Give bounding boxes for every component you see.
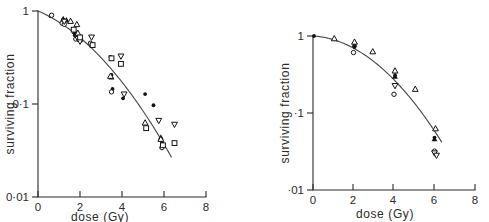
xtick-label-0: 0	[35, 201, 41, 213]
y-axis-title-right: surviving fraction	[278, 63, 292, 164]
xtick-label-8: 8	[472, 194, 478, 206]
xtick-label-6: 6	[431, 194, 437, 206]
data-point-open-square	[90, 43, 95, 48]
data-point-open-triangle-up	[370, 49, 376, 54]
data-point-open-circle	[351, 50, 355, 54]
y-axis-title-left: surviving fraction	[3, 54, 17, 155]
data-point-open-triangle-down	[118, 54, 124, 59]
figure-root: 1 0·1 0·01 0 2 4 6 8 dose (Gy) surviving…	[0, 0, 489, 222]
survival-curve-plot-left: 1 0·1 0·01 0 2 4 6 8 dose (Gy) surviving…	[0, 0, 245, 222]
data-point-open-triangle-up	[412, 86, 418, 91]
xtick-label-6: 6	[161, 201, 167, 213]
series-open-triangle-down	[392, 84, 439, 159]
fit-curve-left	[38, 11, 171, 157]
survival-curve-plot-right: 1 ·1 ·01 0 2 4 6 8 dose (Gy) surviving f…	[245, 0, 489, 222]
series-open-circle	[351, 50, 436, 153]
axis-lines	[313, 36, 475, 190]
data-point-open-circle	[49, 13, 53, 17]
xtick-labels-right: 0 2 4 6 8	[310, 194, 478, 206]
series-open-square	[71, 27, 177, 147]
xtick-label-4: 4	[390, 194, 397, 206]
data-point-open-triangle-up	[331, 36, 337, 41]
data-point-open-triangle-down	[121, 92, 127, 97]
data-point-open-triangle-up	[352, 39, 358, 44]
series-filled-triangle-up	[352, 41, 438, 141]
data-point-open-square	[78, 35, 83, 40]
data-point-open-triangle-down	[172, 122, 178, 127]
chart-panel-left: 1 0·1 0·01 0 2 4 6 8 dose (Gy) surviving…	[0, 0, 245, 222]
data-point-open-triangle-up	[433, 126, 439, 131]
axis-lines	[38, 11, 206, 197]
axes-left	[32, 11, 206, 197]
ytick-label-1: 1	[298, 30, 304, 42]
data-point-filled-circle	[312, 34, 316, 38]
axes-right	[307, 36, 475, 190]
chart-panel-right: 1 ·1 ·01 0 2 4 6 8 dose (Gy) surviving f…	[245, 0, 489, 222]
ytick-label-0p01: 0·01	[6, 191, 29, 203]
data-point-open-square	[144, 126, 149, 131]
data-point-open-triangle-up	[392, 68, 398, 73]
data-point-open-circle	[392, 92, 396, 96]
xtick-label-0: 0	[310, 194, 316, 206]
data-point-open-circle	[109, 90, 113, 94]
data-point-open-square	[71, 27, 76, 32]
data-point-open-square	[172, 141, 177, 146]
data-point-open-triangle-down	[156, 118, 162, 123]
data-point-filled-triangle-up	[392, 73, 398, 78]
data-markers-left	[49, 13, 178, 150]
data-point-filled-circle	[143, 92, 147, 96]
xtick-label-8: 8	[203, 201, 209, 213]
data-point-open-square	[161, 143, 166, 148]
data-point-open-triangle-up	[142, 120, 148, 125]
series-open-triangle-up	[331, 36, 438, 131]
data-point-open-square	[119, 61, 124, 66]
data-point-filled-circle	[152, 103, 156, 107]
data-point-open-triangle-up	[74, 21, 80, 26]
data-point-filled-triangle-up	[432, 136, 438, 141]
x-axis-title-left: dose (Gy)	[71, 210, 129, 222]
fit-curve-right	[313, 36, 442, 142]
data-point-open-square	[109, 56, 114, 61]
data-markers-right	[312, 34, 439, 158]
ytick-label-0p01: ·01	[287, 184, 304, 196]
data-point-open-triangle-down	[392, 84, 398, 89]
ytick-label-0p1: ·1	[294, 107, 304, 119]
ytick-label-1: 1	[23, 5, 29, 17]
data-point-open-triangle-up	[68, 18, 74, 23]
xtick-label-2: 2	[350, 194, 356, 206]
data-point-open-triangle-down	[89, 35, 95, 40]
series-filled-circle	[312, 34, 436, 139]
x-axis-title-right: dose (Gy)	[356, 207, 414, 221]
